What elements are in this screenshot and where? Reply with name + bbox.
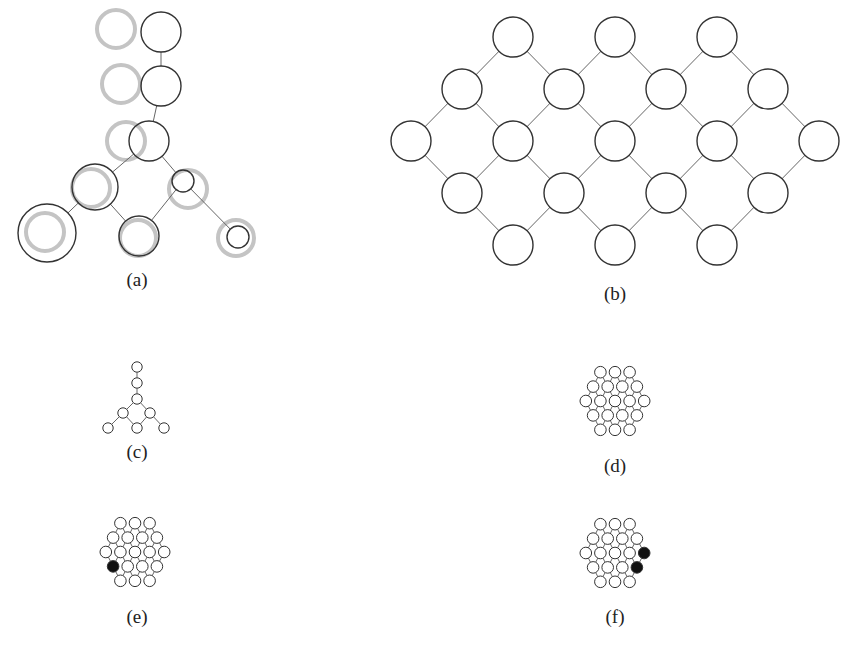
edge <box>782 155 805 178</box>
edge <box>123 543 125 547</box>
edge <box>152 572 154 576</box>
edge <box>123 528 125 532</box>
edge <box>625 529 627 533</box>
node <box>122 561 134 573</box>
ghost-node <box>97 10 135 48</box>
edge <box>632 406 634 410</box>
edge <box>610 406 612 410</box>
edge <box>596 573 598 577</box>
node <box>624 576 636 588</box>
edge <box>476 103 499 126</box>
node <box>118 408 128 418</box>
node <box>107 532 119 544</box>
edge <box>425 155 448 178</box>
node <box>624 518 636 530</box>
node <box>129 121 169 161</box>
edge <box>588 544 590 548</box>
edge <box>596 392 598 396</box>
node <box>137 561 149 573</box>
edge <box>731 103 754 126</box>
node <box>580 395 592 407</box>
edge <box>138 557 140 561</box>
edge <box>116 528 118 532</box>
edge <box>629 51 652 74</box>
edge <box>618 377 620 381</box>
edge <box>782 103 805 126</box>
edge <box>68 203 78 213</box>
edge <box>578 103 601 126</box>
edge <box>116 572 118 576</box>
edge <box>588 406 590 410</box>
edge <box>632 529 634 533</box>
node <box>144 517 156 529</box>
edge <box>588 392 590 396</box>
node <box>442 173 482 213</box>
edge <box>603 421 605 425</box>
node <box>595 547 607 559</box>
edge <box>629 155 652 178</box>
edge <box>527 103 550 126</box>
node <box>609 424 621 436</box>
node <box>580 547 592 559</box>
node <box>132 362 142 372</box>
node <box>144 546 156 558</box>
node <box>595 518 607 530</box>
edge <box>160 543 162 547</box>
edge <box>640 544 642 548</box>
node <box>617 533 629 545</box>
panel-e <box>100 517 170 586</box>
panel-f <box>580 518 650 587</box>
edge <box>160 557 162 561</box>
node <box>158 546 170 558</box>
node <box>141 12 181 52</box>
node <box>587 381 599 393</box>
node <box>151 532 163 544</box>
edge <box>596 529 598 533</box>
node <box>129 575 141 587</box>
ghost-node <box>102 65 140 103</box>
edge <box>123 572 125 576</box>
edge <box>588 558 590 562</box>
edge <box>603 406 605 410</box>
node <box>617 562 629 574</box>
edge <box>618 558 620 562</box>
edge <box>123 557 125 561</box>
edge <box>625 573 627 577</box>
node <box>103 423 113 433</box>
node <box>151 561 163 573</box>
edge <box>127 417 134 424</box>
edge <box>625 558 627 562</box>
edge <box>618 392 620 396</box>
node <box>115 546 127 558</box>
edge <box>130 528 132 532</box>
node <box>544 173 584 213</box>
node <box>617 410 629 422</box>
node <box>631 381 643 393</box>
node <box>697 121 737 161</box>
panel-a <box>18 10 254 262</box>
edge <box>632 392 634 396</box>
node <box>631 533 643 545</box>
edge <box>618 573 620 577</box>
edge <box>116 543 118 547</box>
edge <box>610 558 612 562</box>
edge <box>618 406 620 410</box>
edge <box>578 155 601 178</box>
node <box>609 576 621 588</box>
edge <box>640 406 642 410</box>
edge <box>610 392 612 396</box>
node <box>442 69 482 109</box>
edge <box>603 377 605 381</box>
edge <box>632 558 634 562</box>
edge <box>578 207 601 230</box>
edge <box>680 207 703 230</box>
node <box>697 225 737 265</box>
panel-b <box>391 17 839 265</box>
node <box>159 423 169 433</box>
node <box>602 410 614 422</box>
node <box>595 576 607 588</box>
edge <box>110 204 125 221</box>
node <box>609 547 621 559</box>
edge <box>625 392 627 396</box>
edge <box>596 558 598 562</box>
